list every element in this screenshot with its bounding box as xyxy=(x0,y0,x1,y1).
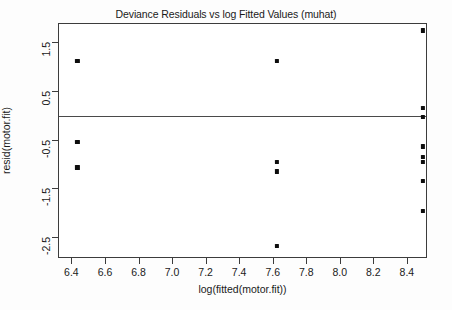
x-axis-tick-label: 7.2 xyxy=(198,266,213,278)
data-point xyxy=(275,244,279,248)
plot-title: Deviance Residuals vs log Fitted Values … xyxy=(0,8,452,20)
y-axis-title: resid(motor.fit) xyxy=(0,23,14,258)
data-point xyxy=(421,179,425,183)
zero-reference-line xyxy=(59,116,426,117)
x-axis-tick-label: 7.8 xyxy=(299,266,314,278)
data-point xyxy=(421,115,425,119)
scatter-plot-figure: Deviance Residuals vs log Fitted Values … xyxy=(0,0,452,310)
x-axis-tick xyxy=(340,258,341,264)
x-axis-title: log(fitted(motor.fit)) xyxy=(58,283,427,295)
data-point xyxy=(421,159,425,163)
data-point xyxy=(275,59,279,63)
data-point xyxy=(75,165,79,169)
x-axis-tick xyxy=(139,258,140,264)
x-axis-tick-label: 7.6 xyxy=(265,266,280,278)
x-axis-tick-label: 8.4 xyxy=(400,266,415,278)
data-point xyxy=(421,106,425,110)
data-point xyxy=(421,28,425,32)
y-axis: 1.50.5-0.5-1.5-2.5 xyxy=(52,23,58,258)
data-point xyxy=(275,159,279,163)
x-axis-tick-label: 7.0 xyxy=(165,266,180,278)
x-axis-tick xyxy=(407,258,408,264)
y-axis-tick-label: -0.5 xyxy=(40,140,52,158)
x-axis-tick xyxy=(306,258,307,264)
x-axis-tick xyxy=(373,258,374,264)
y-axis-tick xyxy=(52,237,58,238)
data-point xyxy=(75,59,79,63)
y-axis-tick xyxy=(52,91,58,92)
data-point xyxy=(421,208,425,212)
x-axis-tick-label: 8.2 xyxy=(366,266,381,278)
x-axis-tick xyxy=(71,258,72,264)
x-axis-tick xyxy=(172,258,173,264)
y-axis-tick-label: 1.5 xyxy=(40,42,52,57)
y-axis-tick-label: -1.5 xyxy=(40,188,52,206)
y-axis-tick-label: 0.5 xyxy=(40,91,52,106)
data-point xyxy=(421,144,425,148)
y-axis-tick xyxy=(52,140,58,141)
x-axis-tick-label: 7.4 xyxy=(232,266,247,278)
x-axis-tick xyxy=(206,258,207,264)
y-axis-tick xyxy=(52,188,58,189)
data-point xyxy=(275,169,279,173)
x-axis-tick xyxy=(105,258,106,264)
x-axis-tick xyxy=(239,258,240,264)
y-axis-tick xyxy=(52,42,58,43)
x-axis-tick-label: 6.8 xyxy=(131,266,146,278)
y-axis-tick-label: -2.5 xyxy=(40,237,52,255)
x-axis-tick-label: 8.0 xyxy=(332,266,347,278)
data-point xyxy=(75,139,79,143)
plot-area xyxy=(58,23,427,258)
x-axis-tick-label: 6.6 xyxy=(98,266,113,278)
x-axis-tick xyxy=(273,258,274,264)
x-axis-tick-label: 6.4 xyxy=(64,266,79,278)
